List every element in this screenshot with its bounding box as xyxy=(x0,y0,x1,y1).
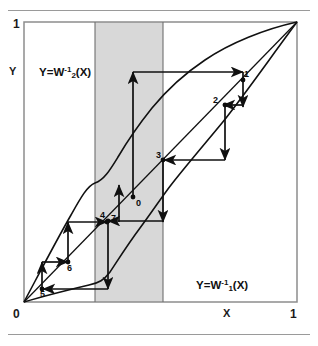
point-label-0: 0 xyxy=(136,199,141,208)
point-dot-7 xyxy=(105,220,110,225)
x-axis-tick-min: 0 xyxy=(13,308,20,320)
curve-label-w1-inverse: Y=W-11(X) xyxy=(196,279,248,293)
point-label-6: 6 xyxy=(67,264,72,273)
point-label-7: 7 xyxy=(111,214,116,223)
x-axis-label: X xyxy=(223,308,230,319)
point-label-4: 4 xyxy=(100,211,105,220)
y-axis-label: Y xyxy=(9,66,16,77)
shaded-region xyxy=(95,22,163,302)
curve-label-w1-base: Y=W xyxy=(196,279,221,291)
point-label-3: 3 xyxy=(156,151,161,160)
point-dot-0 xyxy=(131,195,136,200)
figure-container: 1 0 1 Y X Y=W-12(X) Y=W-11(X) 0 1 2 3 4 … xyxy=(0,0,318,346)
point-dot-3 xyxy=(161,158,166,163)
curve-label-w2-inverse: Y=W-12(X) xyxy=(39,66,91,80)
point-label-5: 5 xyxy=(40,290,45,299)
curve-label-w2-base: Y=W xyxy=(39,66,64,78)
curve-label-w1-tail: (X) xyxy=(233,279,248,291)
x-axis-tick-max: 1 xyxy=(290,308,297,320)
point-label-2: 2 xyxy=(213,96,218,105)
curve-label-w2-tail: (X) xyxy=(76,66,91,78)
point-dot-2 xyxy=(223,103,228,108)
plot-canvas xyxy=(0,0,318,346)
y-axis-tick-max: 1 xyxy=(13,18,20,30)
point-label-1: 1 xyxy=(244,70,249,79)
